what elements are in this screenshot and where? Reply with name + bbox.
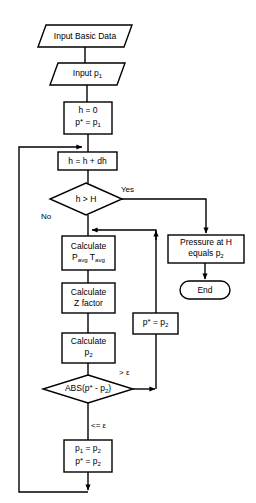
shape-calc-z xyxy=(62,283,115,313)
flowchart-canvas: Input Basic Data Input p1 h = 0 p* = p1 … xyxy=(0,0,256,503)
shape-input-p1 xyxy=(50,63,125,85)
edge-label-lesser-equal-epsilon: <= ε xyxy=(91,421,106,430)
shape-calc-p2 xyxy=(62,333,115,363)
edge-loopback-to-calcavg xyxy=(92,230,156,232)
shape-decision-abs xyxy=(43,375,133,403)
edge-label-greater-epsilon: > ε xyxy=(119,368,129,377)
shape-increment xyxy=(58,152,117,170)
shape-end xyxy=(180,281,230,299)
shape-input-basic-data xyxy=(38,25,132,47)
shape-assign-final xyxy=(64,440,112,472)
edge-label-yes: Yes xyxy=(121,185,134,194)
shape-decision-h xyxy=(50,183,122,215)
shape-update-pstar xyxy=(133,313,178,334)
shape-init xyxy=(64,102,112,134)
edge-decision-yes xyxy=(122,199,206,233)
shape-pressure-at-h xyxy=(168,235,244,263)
shape-calc-avg xyxy=(62,236,115,270)
flowchart-svg xyxy=(0,0,256,503)
edge-label-no: No xyxy=(41,212,51,221)
